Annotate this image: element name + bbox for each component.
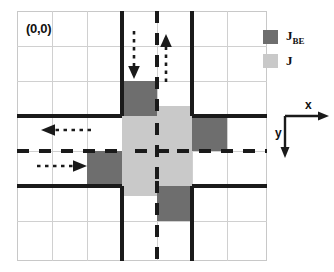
road-edge-vertical-right-top xyxy=(190,11,194,116)
arrow-north-outbound-up-icon xyxy=(157,29,175,84)
origin-label: (0,0) xyxy=(26,21,51,36)
road-edge-horizontal-top-left xyxy=(17,114,122,118)
centerline-vertical-center xyxy=(155,123,159,179)
centerline-vertical-bottom xyxy=(155,181,159,261)
axis-x-label: x xyxy=(305,98,312,112)
gridline-horizontal xyxy=(17,221,267,222)
axis-indicator: x y xyxy=(277,100,331,162)
legend-label-jbe-sub: BE xyxy=(293,36,305,46)
axis-arrows-icon xyxy=(277,100,331,162)
legend-label-jbe: JBE xyxy=(286,28,305,46)
legend-label-j-main: J xyxy=(286,53,293,68)
axis-y-label: y xyxy=(275,126,282,140)
arrow-west-outbound-right-icon xyxy=(35,157,93,175)
cell-jbe-east xyxy=(192,116,227,151)
legend-label-j: J xyxy=(286,53,293,69)
intersection-diagram: (0,0) xyxy=(17,11,267,261)
legend-item-j: J xyxy=(263,51,305,71)
road-edge-vertical-left-bottom xyxy=(120,186,124,261)
road-edge-vertical-left-top xyxy=(120,11,124,116)
road-edge-horizontal-bottom-right xyxy=(192,184,267,188)
legend-swatch-jbe xyxy=(263,30,278,44)
road-edge-horizontal-top-right xyxy=(192,114,267,118)
cell-jbe-north xyxy=(122,81,157,116)
legend-item-jbe: JBE xyxy=(263,27,305,47)
centerline-horizontal-right xyxy=(177,149,267,153)
gridline-vertical xyxy=(227,11,228,261)
arrow-north-inbound-down-icon xyxy=(125,29,143,84)
centerline-horizontal-left xyxy=(17,149,122,153)
legend: JBE J xyxy=(263,27,305,75)
cell-jbe-south xyxy=(157,186,192,221)
legend-swatch-j xyxy=(263,54,278,68)
road-edge-vertical-right-bottom xyxy=(190,186,194,261)
arrow-east-inbound-left-icon xyxy=(35,121,93,139)
road-edge-horizontal-bottom-left xyxy=(17,184,122,188)
